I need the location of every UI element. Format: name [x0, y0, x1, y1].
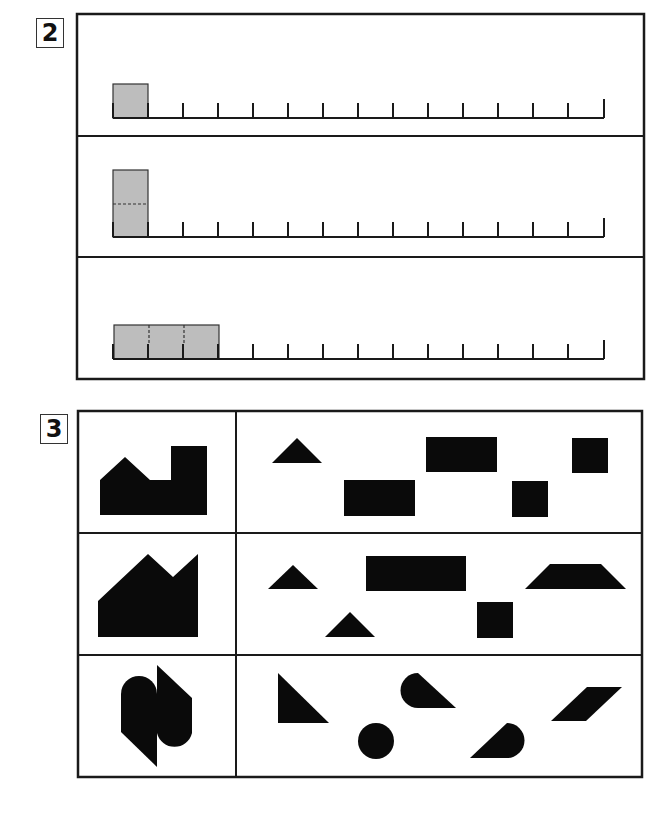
- piece-circle[interactable]: [358, 723, 394, 759]
- ruler-row-2: [113, 170, 604, 237]
- ruler-row-3: [113, 325, 604, 359]
- piece-right-triangle[interactable]: [278, 673, 329, 723]
- piece-trapezoid[interactable]: [525, 564, 626, 589]
- piece-square[interactable]: [572, 438, 608, 473]
- piece-teardrop[interactable]: [401, 673, 457, 708]
- ruler: [113, 218, 604, 237]
- target-shape-rounded-s: [121, 665, 192, 767]
- target-shape-factory: [98, 554, 198, 637]
- piece-teardrop[interactable]: [470, 723, 525, 758]
- piece-parallelogram[interactable]: [551, 687, 622, 721]
- piece-triangle[interactable]: [325, 612, 375, 637]
- piece-triangle[interactable]: [268, 565, 318, 589]
- piece-rectangle[interactable]: [426, 437, 497, 472]
- piece-rectangle[interactable]: [366, 556, 466, 591]
- worksheet-canvas: [0, 0, 669, 832]
- ruler-row-1: [113, 84, 604, 118]
- ruler: [113, 99, 604, 118]
- target-shape-house: [100, 446, 207, 515]
- piece-rectangle[interactable]: [344, 480, 415, 516]
- section-2-frame: [77, 14, 644, 379]
- piece-square[interactable]: [477, 602, 513, 638]
- shaded-wide-rectangle: [114, 325, 219, 359]
- shaded-unit-square: [113, 84, 148, 118]
- piece-square[interactable]: [512, 481, 548, 517]
- piece-triangle[interactable]: [272, 438, 322, 463]
